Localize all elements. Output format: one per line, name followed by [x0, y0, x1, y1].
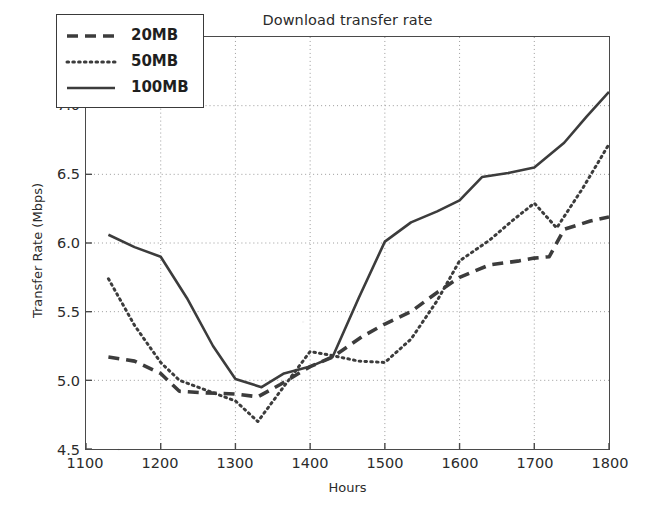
series-line-20mb — [108, 217, 609, 397]
legend-line-swatch — [65, 80, 117, 94]
y-tick-label: 5.0 — [34, 373, 80, 389]
x-tick-label: 1700 — [517, 455, 554, 471]
legend-item-label: 50MB — [131, 52, 178, 70]
x-tick-label: 1300 — [217, 455, 254, 471]
legend-item-100mb[interactable]: 100MB — [65, 74, 189, 100]
x-axis-label: Hours — [85, 480, 610, 495]
x-tick-label: 1500 — [367, 455, 404, 471]
x-tick-label: 1800 — [592, 455, 629, 471]
legend-item-50mb[interactable]: 50MB — [65, 48, 189, 74]
x-tick-label: 1100 — [67, 455, 104, 471]
legend-item-20mb[interactable]: 20MB — [65, 22, 189, 48]
x-tick-label: 1600 — [442, 455, 479, 471]
x-tick-label: 1200 — [142, 455, 179, 471]
legend-item-label: 20MB — [131, 26, 178, 44]
x-tick-label: 1400 — [292, 455, 329, 471]
series-line-100mb — [108, 92, 609, 387]
legend-line-swatch — [65, 28, 117, 42]
legend-line-swatch — [65, 54, 117, 68]
y-axis-label: Transfer Rate (Mbps) — [30, 151, 45, 351]
chart-legend: 20MB50MB100MB — [56, 14, 204, 108]
legend-item-label: 100MB — [131, 78, 189, 96]
figure-canvas: Download transfer rate 4.55.05.56.06.57.… — [0, 0, 659, 511]
